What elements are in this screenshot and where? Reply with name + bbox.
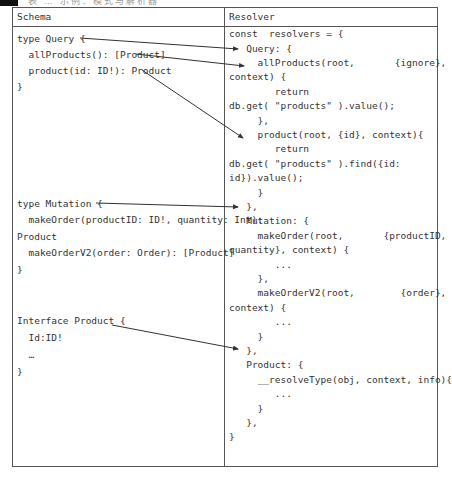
caption-marker bbox=[0, 0, 18, 6]
resolver-code-line: }, bbox=[229, 273, 269, 285]
resolver-code-line: }, bbox=[229, 345, 258, 357]
schema-code-line: product(id: ID!): Product bbox=[17, 65, 171, 77]
resolver-code-line: return bbox=[229, 86, 309, 98]
resolver-code-line: }, bbox=[229, 417, 258, 429]
resolver-code-line: ... bbox=[229, 316, 292, 328]
resolver-code-line: product(root, {id}, context){ bbox=[229, 129, 423, 141]
resolver-code-line: quantity}, context) { bbox=[229, 244, 349, 256]
schema-code-line: allProducts(): [Product] bbox=[17, 49, 166, 61]
resolver-code-line: makeOrder(root, {productID, bbox=[229, 230, 446, 242]
resolver-code-line: return bbox=[229, 143, 309, 155]
resolver-code-line: Mutation: { bbox=[229, 215, 309, 227]
schema-code-line: makeOrderV2(order: Order): [Product] bbox=[17, 247, 234, 259]
schema-code-line: } bbox=[17, 366, 23, 378]
resolver-code-line: Product: { bbox=[229, 359, 303, 371]
schema-code-line: Interface Product { bbox=[17, 315, 126, 327]
resolver-code-line: Query: { bbox=[229, 43, 292, 55]
resolver-code-line: makeOrderV2(root, {order}, bbox=[229, 287, 446, 299]
caption-text: 表 … 示例：模式与解析器 bbox=[28, 0, 159, 7]
schema-code-line: type Query { bbox=[17, 33, 86, 45]
schema-code-line: } bbox=[17, 264, 23, 276]
resolver-code-line: db.get( "products" ).value(); bbox=[229, 100, 395, 112]
schema-code-line: Id:ID! bbox=[17, 332, 63, 344]
resolver-code-line: const resolvers = { bbox=[229, 28, 343, 40]
schema-code-line: type Mutation { bbox=[17, 198, 103, 210]
resolver-code-line: allProducts(root, {ignore}, bbox=[229, 57, 446, 69]
resolver-code-line: } bbox=[229, 403, 263, 415]
schema-code-line: … bbox=[17, 349, 34, 361]
resolver-code-line: context) { bbox=[229, 302, 286, 314]
resolver-code-line: ... bbox=[229, 388, 292, 400]
resolver-code-line: } bbox=[229, 431, 235, 443]
resolver-code-line: }, bbox=[229, 201, 258, 213]
resolver-code-line: }, bbox=[229, 115, 269, 127]
resolver-code-line: id}).value(); bbox=[229, 172, 303, 184]
resolver-code-line: } bbox=[229, 187, 263, 199]
schema-code-line: } bbox=[17, 81, 23, 93]
header-schema: Schema bbox=[17, 11, 51, 22]
column-divider bbox=[224, 7, 225, 467]
resolver-code-line: ... bbox=[229, 259, 292, 271]
resolver-code-line: context) { bbox=[229, 71, 286, 83]
schema-code-line: makeOrder(productID: ID!, quantity: Int)… bbox=[17, 214, 263, 226]
header-divider bbox=[12, 26, 438, 27]
resolver-code-line: db.get( "products" ).find({id: bbox=[229, 158, 401, 170]
resolver-code-line: __resolveType(obj, context, info){ bbox=[229, 374, 452, 386]
header-resolver: Resolver bbox=[229, 11, 275, 22]
resolver-code-line: } bbox=[229, 331, 263, 343]
schema-code-line: Product bbox=[17, 231, 57, 243]
